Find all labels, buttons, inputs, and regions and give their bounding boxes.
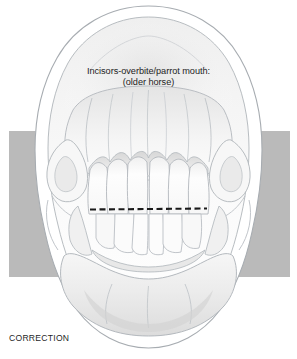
upper-incisor-right-2 [168, 159, 190, 214]
lower-incisor-left-2 [114, 214, 135, 253]
upper-incisor-left-2 [107, 159, 129, 214]
upper-incisor-right-3 [188, 163, 209, 214]
horse-head-illustration [0, 0, 297, 359]
lower-incisor-right-2 [163, 214, 183, 253]
lower-incisor-right-1 [149, 214, 164, 255]
upper-incisor-left-3 [88, 163, 109, 214]
lower-incisor-right-3 [182, 214, 202, 249]
upper-incisor-right-1 [149, 157, 169, 214]
illustration-figure: Incisors-overbite/parrot mouth: (older h… [0, 0, 297, 359]
upper-incisor-left-1 [127, 157, 147, 214]
lower-incisor-left-3 [96, 214, 116, 249]
correction-label: CORRECTION [9, 333, 69, 343]
lower-incisor-left-1 [132, 214, 148, 255]
